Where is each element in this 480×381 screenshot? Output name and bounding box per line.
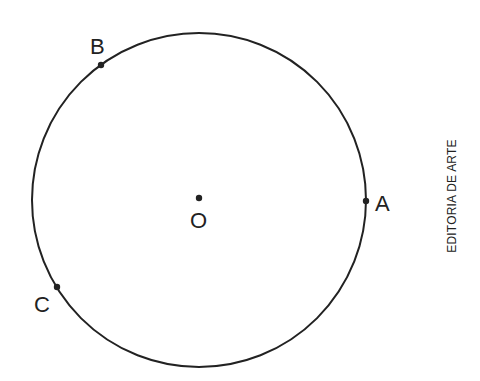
center-point-o: [196, 195, 202, 201]
label-b: B: [90, 36, 105, 58]
label-c: C: [34, 294, 50, 316]
label-a: A: [375, 193, 390, 215]
label-o: O: [190, 210, 207, 232]
point-c: [54, 284, 60, 290]
point-a: [363, 198, 369, 204]
point-b: [98, 62, 104, 68]
circle-diagram: [0, 0, 480, 381]
credit-text: EDITORIA DE ARTE: [445, 139, 459, 252]
